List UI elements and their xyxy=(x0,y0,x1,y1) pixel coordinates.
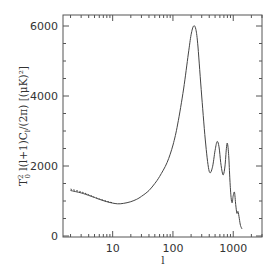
y-axis-ticks xyxy=(63,26,262,236)
y-tick-label: 2000 xyxy=(30,160,58,173)
x-tick-label: 10 xyxy=(106,242,120,255)
dotted-overlay-curve xyxy=(71,189,113,203)
y-tick-label: 6000 xyxy=(30,20,58,33)
y-axis-tick-labels: 0200040006000 xyxy=(30,20,58,243)
x-axis-ticks xyxy=(71,15,262,237)
x-axis-title: l xyxy=(161,254,165,266)
x-axis-tick-labels: 101001000 xyxy=(106,242,248,255)
power-spectrum-curve xyxy=(71,26,243,229)
y-tick-label: 4000 xyxy=(30,90,58,103)
cmb-power-spectrum-chart: 0200040006000 101001000 l T20 l(l+1)Cl/(… xyxy=(0,0,274,278)
x-tick-label: 1000 xyxy=(219,242,247,255)
x-tick-label: 100 xyxy=(162,242,183,255)
y-tick-label: 0 xyxy=(51,230,58,243)
plot-frame xyxy=(63,15,262,237)
